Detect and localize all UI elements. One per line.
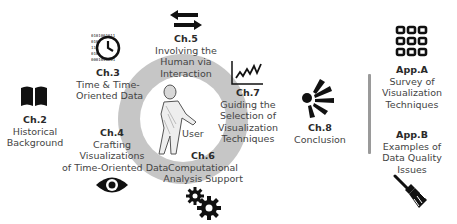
arrows-left-right-icon bbox=[168, 10, 204, 30]
chapter-number: Ch.5 bbox=[154, 33, 218, 45]
broom-icon bbox=[393, 174, 429, 210]
chapter-ch7[interactable]: Ch.7 Guiding the Selection of Visualizat… bbox=[216, 87, 280, 145]
chapter-ch2[interactable]: Ch.2 Historical Background bbox=[4, 114, 66, 149]
chapter-title-line: Interaction bbox=[154, 68, 218, 80]
clock-binary-icon: 0101001011 0101001001 1100101000 0101001… bbox=[91, 33, 125, 65]
chapter-ch4[interactable]: Ch.4 Crafting Visualizations of Time-Ori… bbox=[62, 127, 162, 173]
chapter-number: Ch.2 bbox=[4, 114, 66, 126]
appendix-appA[interactable]: App.A Survey of Visualization Techniques bbox=[378, 64, 446, 110]
chapter-title-line: Oriented Data bbox=[76, 90, 140, 102]
appendix-appB[interactable]: App.B Examples of Data Quality Issues bbox=[378, 129, 446, 175]
appendix-title-line: Techniques bbox=[378, 99, 446, 111]
chapter-title-line: Selection of bbox=[216, 110, 280, 122]
grid-icon bbox=[395, 25, 429, 57]
chapter-title-line: Techniques bbox=[216, 133, 280, 145]
burst-icon bbox=[300, 78, 338, 118]
book-icon bbox=[20, 85, 48, 107]
chapter-title-line: Visualizations bbox=[62, 150, 162, 162]
user-label: User bbox=[182, 128, 204, 139]
chapter-ch3[interactable]: Ch.3 Time & Time- Oriented Data bbox=[76, 67, 140, 102]
chapter-number: Ch.3 bbox=[76, 67, 140, 79]
chapter-title-line: Background bbox=[4, 137, 66, 149]
chapter-title-line: Conclusion bbox=[290, 134, 350, 146]
appendix-title-line: Survey of bbox=[378, 76, 446, 88]
chapter-title-line: Visualization bbox=[216, 122, 280, 134]
chapter-ch5[interactable]: Ch.5 Involving the Human via Interaction bbox=[154, 33, 218, 79]
chapter-title-line: Time & Time- bbox=[76, 79, 140, 91]
chapter-title-line: Analysis Support bbox=[162, 173, 244, 185]
chapter-title-line: Historical bbox=[4, 126, 66, 138]
chapter-number: Ch.4 bbox=[62, 127, 162, 139]
appendix-divider bbox=[368, 74, 371, 154]
chapter-title-line: of Time-Oriented Data bbox=[62, 162, 162, 174]
appendix-title-line: Visualization bbox=[378, 87, 446, 99]
chapter-title-line: Involving the bbox=[154, 45, 218, 57]
chapter-number: Ch.8 bbox=[290, 122, 350, 134]
chapter-title-line: Human via bbox=[154, 56, 218, 68]
chapter-title-line: Guiding the bbox=[216, 99, 280, 111]
appendix-title-line: Examples of bbox=[378, 141, 446, 153]
appendix-number: App.A bbox=[378, 64, 446, 76]
chapter-title-line: Computational bbox=[162, 162, 244, 174]
line-chart-icon bbox=[230, 60, 264, 86]
chapter-number: Ch.6 bbox=[162, 150, 244, 162]
appendix-number: App.B bbox=[378, 129, 446, 141]
gears-icon bbox=[185, 186, 221, 220]
chapter-ch8[interactable]: Ch.8 Conclusion bbox=[290, 122, 350, 145]
chapter-ch6[interactable]: Ch.6 Computational Analysis Support bbox=[162, 150, 244, 185]
chapter-number: Ch.7 bbox=[216, 87, 280, 99]
appendix-title-line: Data Quality bbox=[378, 152, 446, 164]
chapter-title-line: Crafting bbox=[62, 139, 162, 151]
eye-icon bbox=[95, 174, 129, 196]
